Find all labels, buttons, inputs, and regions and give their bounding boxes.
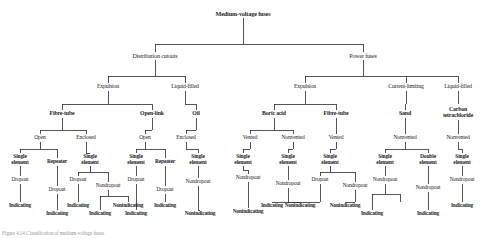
node-single-element-4: Singleelement — [178, 154, 218, 165]
node-fibre-tube-b-vented: Vented — [329, 135, 344, 141]
node-nonindicating-1: Nonindicating — [113, 203, 144, 209]
node-single-element-8: Singleelement — [365, 154, 405, 165]
node-nondropout-8: Nondropout — [450, 177, 475, 183]
node-nondropout-1: Nondropout — [96, 183, 121, 189]
node-indicating-4: Indicating — [89, 211, 111, 217]
node-oil-enclosed: Enclosed — [176, 135, 195, 141]
node-nondropout-6: Nondropout — [373, 177, 398, 183]
node-oil: Oil — [192, 111, 199, 117]
node-single-element-7: Singleelement — [310, 154, 350, 165]
node-nondropout-2: Nondropout — [186, 179, 211, 185]
node-sand-nonvented: Nonvented — [393, 135, 416, 141]
figure-caption: Figure 4.14 Classification of medium-vol… — [2, 230, 105, 236]
node-indicating-5: Indicating — [125, 211, 147, 217]
node-single-element-6: Singleelement — [268, 154, 308, 165]
node-nondropout-4: Nondropout — [276, 181, 301, 187]
node-fibre-tube-power-fuse: Fibre-tube — [324, 111, 349, 117]
node-dc-expulsion: Expulsion — [97, 84, 119, 90]
node-dropout-1: Dropout — [12, 177, 29, 183]
node-boric-acid-vented: Vented — [243, 135, 258, 141]
node-nonindicating-3: Nonindicating — [233, 209, 264, 215]
node-nonindicating-2: Nonindicating — [185, 211, 216, 217]
node-sand: Sand — [399, 111, 411, 117]
node-single-element-2: Singleelement — [70, 154, 110, 165]
node-fibre-tube-open: Open — [34, 135, 46, 141]
fuse-classification-diagram: Medium-voltage fuses Distribution cutout… — [0, 0, 487, 239]
node-fibre-tube-enclosed: Enclosed — [76, 135, 95, 141]
node-boric-acid: Boric acid — [262, 111, 286, 117]
node-nonindicating-5: Nonindicating — [330, 203, 361, 209]
node-indicating-3: Indicating — [67, 203, 89, 209]
node-carbon-tetrachloride: Carbontetrachloride — [438, 107, 478, 119]
node-repeater-1: Repeater — [47, 159, 67, 165]
node-dropout-6: Dropout — [312, 177, 329, 183]
node-indicating-2: Indicating — [46, 211, 68, 217]
node-nondropout-7: Nondropout — [416, 185, 441, 191]
node-indicating-8: Indicating — [361, 211, 383, 217]
node-pf-expulsion: Expulsion — [294, 84, 316, 90]
node-indicating-10: Indicating — [451, 203, 473, 209]
node-dc-liquid-filled: Liquid-filled — [171, 84, 199, 90]
node-single-element-9: Singleelement — [442, 154, 482, 165]
node-dropout-2: Dropout — [49, 187, 66, 193]
node-indicating-6: Indicating — [154, 203, 176, 209]
node-open-link: Open-link — [140, 111, 164, 117]
node-nondropout-5: Nondropout — [343, 183, 368, 189]
node-dropout-5: Dropout — [157, 187, 174, 193]
node-power-fuses: Power fuses — [349, 53, 377, 59]
node-fibre-tube-expulsion-cutout: Fibre-tube — [50, 111, 75, 117]
node-single-element-3: Singleelement — [116, 154, 156, 165]
node-pf-liquid-filled: Liquid-filled — [444, 84, 472, 90]
node-dropout-3: Dropout — [70, 177, 87, 183]
node-distribution-cutouts: Distribution cutouts — [133, 53, 178, 59]
node-boric-acid-nonvented: Nonvented — [281, 135, 304, 141]
node-dropout-4: Dropout — [128, 177, 145, 183]
node-indicating-7: Indicating — [261, 203, 283, 209]
node-open-link-open: Open — [139, 135, 151, 141]
node-indicating-9: Indicating — [417, 211, 439, 217]
node-indicating-1: Indicating — [9, 203, 31, 209]
node-single-element-1: Singleelement — [0, 154, 40, 165]
node-pf-current-limiting: Current-limiting — [388, 84, 424, 90]
node-single-element-5: Singleelement — [223, 154, 263, 165]
node-root: Medium-voltage fuses — [216, 11, 271, 17]
node-nonindicating-4: Nonindicating — [285, 203, 316, 209]
node-repeater-2: Repeater — [155, 159, 175, 165]
node-carbon-tet-nonvented: Nonvented — [446, 135, 469, 141]
node-nondropout-3: Nondropout — [236, 175, 261, 181]
